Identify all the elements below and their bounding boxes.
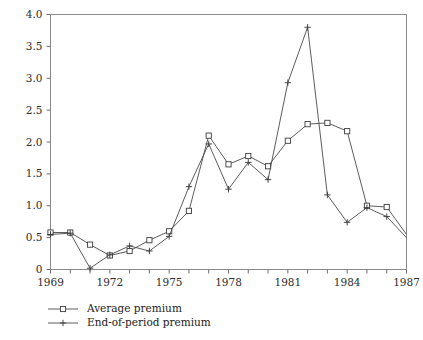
data-point-marker: [225, 186, 231, 192]
x-tick-label: 1975: [156, 276, 183, 288]
data-point-marker: [384, 204, 389, 209]
data-point-marker: [285, 138, 290, 143]
x-tick-label: 1981: [274, 276, 301, 288]
legend-marker-square: [60, 306, 65, 311]
data-point-marker: [206, 141, 212, 147]
y-tick-label: 2.5: [26, 104, 43, 116]
y-tick-label: 3.5: [26, 40, 43, 52]
data-point-marker: [186, 208, 191, 213]
y-tick-label: 2.0: [26, 136, 43, 148]
data-point-marker: [206, 133, 211, 138]
x-tick-label: 1978: [215, 276, 242, 288]
plot-frame: [51, 15, 407, 270]
y-tick-label: 1.0: [26, 199, 43, 211]
legend-label: Average premium: [86, 302, 182, 314]
y-tick-label: 3.0: [26, 72, 43, 84]
data-point-marker: [344, 219, 350, 225]
x-tick-label: 1972: [96, 276, 123, 288]
y-tick-label: 0.5: [26, 231, 43, 243]
x-tick-label: 1987: [393, 276, 420, 288]
x-axis: 1969197219751978198119841987: [37, 270, 420, 288]
legend-label: End-of-period premium: [87, 316, 211, 328]
y-axis: 00.51.01.52.02.53.03.54.0: [26, 8, 51, 275]
y-tick-label: 1.5: [26, 167, 43, 179]
series-2: [47, 24, 406, 271]
legend-entry-1: Average premium: [48, 302, 182, 314]
data-point-marker: [186, 183, 192, 189]
data-point-marker: [246, 153, 251, 158]
data-point-marker: [147, 238, 152, 243]
x-tick-label: 1969: [37, 276, 64, 288]
data-point-marker: [285, 80, 291, 86]
data-point-marker: [345, 129, 350, 134]
data-point-marker: [87, 265, 93, 271]
data-point-marker: [127, 248, 132, 253]
chart-figure: 00.51.01.52.02.53.03.54.0 19691972197519…: [0, 0, 423, 340]
data-point-marker: [87, 242, 92, 247]
data-point-marker: [226, 162, 231, 167]
series-line: [51, 27, 407, 268]
data-point-marker: [325, 120, 330, 125]
data-point-marker: [305, 122, 310, 127]
data-series-group: [47, 24, 406, 271]
premium-line-chart: 00.51.01.52.02.53.03.54.0 19691972197519…: [0, 0, 423, 340]
x-tick-label: 1984: [334, 276, 361, 288]
data-point-marker: [146, 248, 152, 254]
plot-border: [51, 15, 407, 270]
legend-entry-2: End-of-period premium: [48, 316, 211, 328]
data-point-marker: [265, 164, 270, 169]
y-tick-label: 0: [36, 263, 43, 275]
chart-legend: Average premiumEnd-of-period premium: [48, 302, 211, 328]
y-tick-label: 4.0: [26, 8, 43, 20]
legend-marker-plus: [60, 320, 66, 326]
data-point-marker: [304, 24, 310, 30]
data-point-marker: [324, 192, 330, 198]
